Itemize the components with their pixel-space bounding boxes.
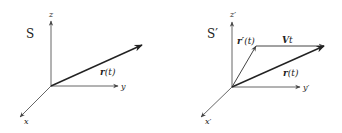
z-prime-axis-label: z′ (229, 10, 236, 19)
y-axis-label: y (120, 82, 126, 91)
vector-r-label: r(t) (100, 67, 116, 77)
reference-frames-diagram: S z y x r(t) S′ z′ y′ x′ r′(t) Vt r(t) (0, 0, 342, 133)
vector-r-label-right: r(t) (283, 68, 299, 78)
frame-s-prime-diagram: S′ z′ y′ x′ r′(t) Vt r(t) (201, 10, 324, 126)
x-axis-label: x (24, 117, 29, 126)
frame-s-diagram: S z y x r(t) (20, 10, 142, 126)
x-prime-axis (201, 87, 232, 117)
position-vector-r (232, 46, 324, 87)
vector-r-prime-label: r′(t) (237, 36, 255, 46)
frame-label-s-prime: S′ (207, 27, 218, 41)
x-prime-axis-label: x′ (205, 117, 212, 126)
vector-vt-label: Vt (282, 35, 293, 45)
frame-label-s: S (26, 27, 34, 41)
y-prime-axis-label: y′ (302, 83, 310, 92)
position-vector-r (51, 45, 142, 86)
z-axis-label: z (48, 10, 54, 19)
position-vector-r-prime (232, 46, 256, 87)
x-axis (20, 86, 51, 117)
